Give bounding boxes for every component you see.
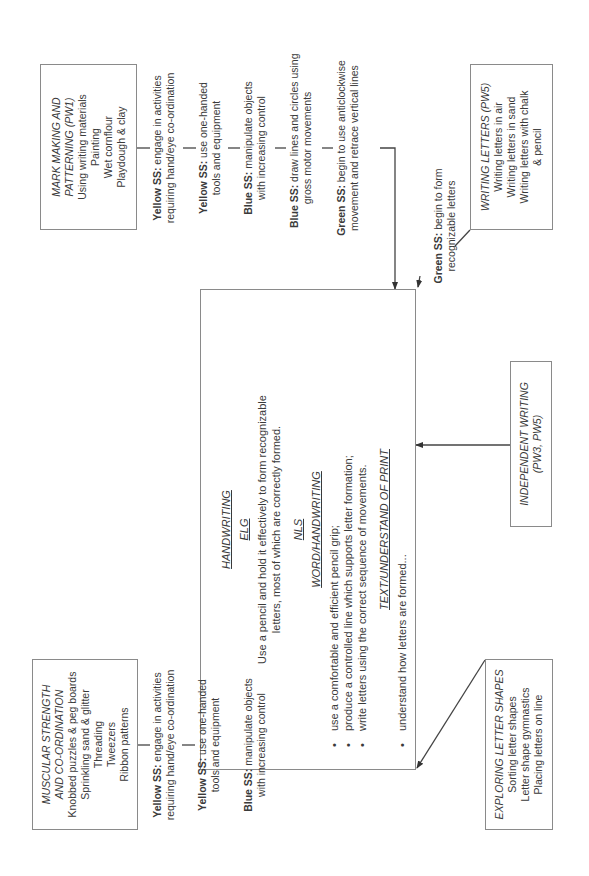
list-item: Ribbon patterns: [118, 707, 131, 781]
list-item: Using writing materials: [76, 94, 89, 200]
mark-step-2: Yellow SS: use one-handedtools and equip…: [197, 68, 223, 228]
muscular-step-2: Yellow SS: use one-handedtools and equip…: [196, 665, 222, 825]
independent-title-1: INDEPENDENT WRITING: [518, 382, 531, 506]
writing-letters-box: WRITING LETTERS (PW5) Writing letters in…: [470, 64, 553, 230]
list-item: use a comfortable and efficient pencil g…: [327, 306, 341, 739]
handwriting-center-box: HANDWRITING ELG Use a pencil and hold it…: [200, 289, 416, 770]
list-item: Writing letters with chalk: [518, 91, 531, 204]
independent-writing-box: INDEPENDENT WRITING (PW3, PW5): [510, 361, 552, 527]
list-item: Writing letters in sand: [505, 97, 518, 198]
list-item: Threading: [92, 721, 105, 768]
list-item: write letters using the correct sequence…: [355, 306, 369, 739]
mark-making-box: MARK MAKING AND PATTERNING (PW1) Using w…: [40, 64, 137, 230]
list-item: Painting: [89, 128, 102, 166]
list-item: Sorting letter shapes: [506, 696, 519, 792]
writing-step: Green SS: begin to formrecognizable lett…: [432, 166, 458, 286]
mark-step-1: Yellow SS: engage in activitiesrequiring…: [151, 68, 177, 228]
text-understand-list: understand how letters are formed...: [395, 306, 409, 753]
independent-title-2: (PW3, PW5): [531, 415, 544, 473]
diagram-canvas: HANDWRITING ELG Use a pencil and hold it…: [0, 0, 589, 876]
nls-heading: NLS: [291, 306, 305, 753]
list-item: produce a controlled line which supports…: [341, 306, 355, 739]
exploring-letter-shapes-box: EXPLORING LETTER SHAPES Sorting letter s…: [485, 659, 553, 830]
mark-making-title-1: MARK MAKING AND: [50, 97, 63, 196]
mark-step-5: Green SS: begin to use anticlockwisemove…: [335, 58, 361, 238]
muscular-step-1: Yellow SS: engage in activitiesrequiring…: [151, 665, 177, 825]
elg-text-2: letters, most of which are correctly for…: [269, 306, 283, 753]
writing-letters-title: WRITING LETTERS (PW5): [479, 83, 492, 211]
muscular-title-1: MUSCULAR STRENGTH: [40, 685, 53, 805]
list-item: Sprinkling sand & glitter: [79, 689, 92, 799]
list-item: Wet cornflour: [102, 116, 115, 178]
list-item: Playdough & clay: [115, 106, 128, 187]
word-handwriting-heading: WORD/HANDWRITING: [309, 306, 323, 753]
mark-making-title-2: PATTERNING (PW1): [63, 98, 76, 197]
list-item: Knobbed puzzles & peg boards: [66, 672, 79, 818]
muscular-title-2: AND CO-ORDINATION: [53, 690, 66, 799]
list-item: Tweezers: [105, 722, 118, 767]
list-item: Placing letters on line: [532, 695, 545, 795]
list-item: & pencil: [531, 128, 544, 165]
mark-step-4: Blue SS: draw lines and circles usinggro…: [288, 68, 314, 228]
list-item: Letter shape gymnastics: [519, 688, 532, 802]
list-item: understand how letters are formed...: [395, 306, 409, 739]
list-item: Writing letters in air: [492, 102, 505, 192]
text-understand-heading: TEXT/UNDERSTAND OF PRINT: [377, 306, 391, 753]
mark-step-3: Blue SS: manipulate objectswith increasi…: [242, 68, 268, 228]
word-handwriting-list: use a comfortable and efficient pencil g…: [327, 306, 369, 753]
muscular-strength-box: MUSCULAR STRENGTH AND CO-ORDINATION Knob…: [32, 659, 138, 830]
muscular-step-3: Blue SS: manipulate objectswith increasi…: [242, 665, 268, 825]
exploring-title: EXPLORING LETTER SHAPES: [493, 670, 506, 820]
